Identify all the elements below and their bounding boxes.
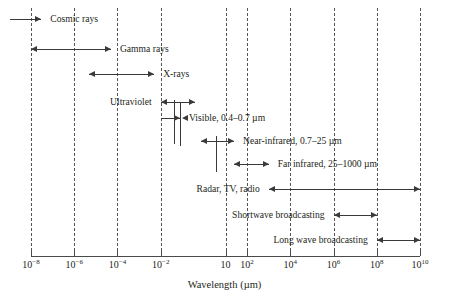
arrow-right-icon bbox=[189, 99, 195, 105]
band-row-ultraviolet: Ultraviolet bbox=[0, 97, 449, 109]
arrow-right-icon bbox=[371, 212, 377, 218]
arrow-right-icon bbox=[35, 16, 41, 22]
band-label-cosmic-rays: Cosmic rays bbox=[50, 13, 98, 25]
x-axis-tick-label: 102 bbox=[240, 259, 254, 270]
x-axis-tick bbox=[31, 250, 32, 256]
band-label-near-infrared: Near-infrared, 0.7–25 µm bbox=[243, 135, 342, 147]
arrow-right-icon bbox=[228, 138, 234, 144]
band-label-visible: Visible, 0.4–0.7 µm bbox=[189, 112, 265, 124]
x-axis-tick-label: 10−2 bbox=[152, 259, 169, 270]
band-row-shortwave-broadcasting: Shortwave broadcasting bbox=[0, 210, 449, 222]
band-label-ultraviolet: Ultraviolet bbox=[110, 96, 152, 108]
band-row-long-wave-broadcasting: Long wave broadcasting bbox=[0, 235, 449, 247]
band-row-visible: Visible, 0.4–0.7 µm bbox=[0, 113, 449, 125]
arrow-left-icon bbox=[161, 99, 167, 105]
arrow-left-icon bbox=[234, 161, 240, 167]
band-row-cosmic-rays: Cosmic rays bbox=[0, 14, 449, 26]
x-axis-tick-label: 10−8 bbox=[22, 259, 39, 270]
electromagnetic-spectrum-chart: Cosmic raysGamma raysX-raysUltravioletVi… bbox=[0, 0, 449, 304]
band-row-near-infrared: Near-infrared, 0.7–25 µm bbox=[0, 136, 449, 148]
x-axis-tick bbox=[161, 250, 162, 256]
bracket-uv-visible bbox=[174, 100, 175, 144]
band-row-gamma-rays: Gamma rays bbox=[0, 44, 449, 56]
x-axis-line bbox=[31, 256, 420, 257]
band-range-line bbox=[89, 74, 154, 75]
band-label-x-rays: X-rays bbox=[163, 68, 189, 80]
band-range-line bbox=[31, 49, 111, 50]
band-label-far-infrared: Far infrared, 25–1000 µm bbox=[278, 158, 377, 170]
x-axis-tick-label: 10 bbox=[221, 259, 231, 270]
bracket-visible-edge bbox=[180, 102, 181, 146]
arrow-left-icon bbox=[269, 186, 275, 192]
arrow-right-icon bbox=[414, 237, 420, 243]
arrow-right-icon bbox=[263, 161, 269, 167]
arrow-right-icon bbox=[105, 46, 111, 52]
band-row-radar-tv-radio: Radar, TV, radio bbox=[0, 184, 449, 196]
band-row-far-infrared: Far infrared, 25–1000 µm bbox=[0, 159, 449, 171]
x-axis-tick bbox=[117, 250, 118, 256]
x-axis-tick-label: 106 bbox=[327, 259, 341, 270]
arrow-left-icon bbox=[377, 237, 383, 243]
x-axis-tick-label: 10−4 bbox=[109, 259, 126, 270]
x-axis-tick bbox=[334, 250, 335, 256]
x-axis-tick-label: 10−6 bbox=[65, 259, 82, 270]
arrow-left-icon bbox=[89, 71, 95, 77]
x-axis-tick-label: 104 bbox=[284, 259, 298, 270]
band-label-gamma-rays: Gamma rays bbox=[120, 43, 169, 55]
arrow-left-icon bbox=[182, 115, 188, 121]
x-axis-tick bbox=[247, 250, 248, 256]
band-label-radar-tv-radio: Radar, TV, radio bbox=[197, 183, 260, 195]
x-axis-title: Wavelength (µm) bbox=[0, 279, 449, 290]
x-axis-tick bbox=[377, 250, 378, 256]
x-axis-tick bbox=[420, 250, 421, 256]
x-axis-tick bbox=[290, 250, 291, 256]
bracket-nir-fir bbox=[216, 136, 217, 172]
arrow-right-icon bbox=[148, 71, 154, 77]
arrow-left-icon bbox=[334, 212, 340, 218]
x-axis-tick bbox=[74, 250, 75, 256]
arrow-right-icon bbox=[414, 186, 420, 192]
x-axis-tick-label: 108 bbox=[370, 259, 384, 270]
band-row-x-rays: X-rays bbox=[0, 69, 449, 81]
arrow-left-icon bbox=[201, 138, 207, 144]
band-range-line bbox=[269, 189, 420, 190]
band-label-shortwave-broadcasting: Shortwave broadcasting bbox=[232, 209, 324, 221]
x-axis-tick-label: 1010 bbox=[412, 259, 429, 270]
x-axis-tick bbox=[226, 250, 227, 256]
band-label-long-wave-broadcasting: Long wave broadcasting bbox=[273, 234, 367, 246]
arrow-left-icon bbox=[31, 46, 37, 52]
